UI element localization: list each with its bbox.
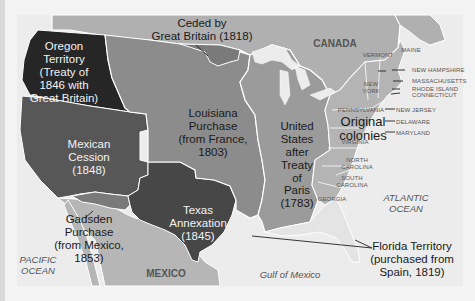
- label-line: Purchase: [54, 226, 124, 239]
- label-new-jersey: NEW JERSEY: [396, 107, 436, 114]
- label-line: NEW: [362, 81, 379, 88]
- label-texas-annexation: Texas Annexation (1845): [169, 204, 227, 243]
- label-delaware: DELAWARE: [396, 119, 430, 126]
- label-gulf-of-mexico: Gulf of Mexico: [260, 270, 321, 281]
- label-north-carolina: NORTH CAROLINA: [341, 157, 372, 170]
- label-line: States: [280, 133, 313, 146]
- label-line: Cession: [68, 151, 111, 164]
- label-line: SOUTH: [336, 175, 367, 182]
- label-maine: MAINE: [401, 47, 421, 54]
- label-line: (Treaty of: [30, 66, 98, 79]
- label-maryland: MARYLAND: [396, 130, 430, 137]
- label-line: 1803): [178, 146, 247, 159]
- label-louisiana-purchase: Louisiana Purchase (from France, 1803): [178, 107, 247, 159]
- label-line: OCEAN: [20, 266, 57, 277]
- label-line: Great Britain (1818): [152, 30, 253, 43]
- label-mexico: MEXICO: [146, 268, 185, 279]
- label-georgia: GEORGIA: [318, 196, 347, 203]
- label-line: Great Britain): [30, 92, 98, 105]
- label-new-york: NEW YORK: [362, 81, 379, 94]
- label-line: after: [280, 146, 313, 159]
- label-line: (from France,: [178, 133, 247, 146]
- label-atlantic-ocean: ATLANTIC OCEAN: [383, 193, 428, 214]
- label-ceded-by-great-britain: Ceded by Great Britain (1818): [152, 17, 253, 43]
- label-pennsylvania: PENNSYLVANIA: [338, 107, 384, 114]
- label-gadsden-purchase: Gadsden Purchase (from Mexico, 1853): [54, 213, 124, 265]
- label-line: Texas: [169, 204, 227, 217]
- label-connecticut: CONNECTICUT: [412, 92, 457, 99]
- label-line: (from Mexico,: [54, 239, 124, 252]
- label-line: Gadsden: [54, 213, 124, 226]
- label-line: Original: [339, 115, 387, 129]
- label-new-hampshire: NEW HAMPSHIRE: [412, 67, 465, 74]
- label-line: United: [280, 120, 313, 133]
- label-line: (1783): [280, 197, 313, 210]
- label-line: Mexican: [68, 138, 111, 151]
- label-line: CAROLINA: [336, 182, 367, 189]
- label-line: YORK: [362, 88, 379, 95]
- label-line: 1846 with: [30, 79, 98, 92]
- label-line: Ceded by: [152, 17, 253, 30]
- label-line: (1845): [169, 230, 227, 243]
- label-line: (purchased from: [370, 253, 454, 266]
- label-line: Oregon: [30, 40, 98, 53]
- label-line: NORTH: [341, 157, 372, 164]
- label-line: Annexation: [169, 217, 227, 230]
- label-line: of: [280, 172, 313, 185]
- label-united-states-treaty-of-paris: United States after Treaty of Paris (178…: [280, 120, 313, 210]
- label-line: Purchase: [178, 120, 247, 133]
- label-vermont: VERMONT: [363, 52, 394, 59]
- label-line: Louisiana: [178, 107, 247, 120]
- label-line: (1848): [68, 164, 111, 177]
- label-line: Territory: [30, 53, 98, 66]
- label-oregon-territory: Oregon Territory (Treaty of 1846 with Gr…: [30, 40, 98, 104]
- label-pacific-ocean: PACIFIC OCEAN: [20, 255, 57, 276]
- label-virginia: VIRGINIA: [341, 139, 368, 146]
- label-florida-territory: Florida Territory (purchased from Spain,…: [370, 240, 454, 279]
- label-canada: CANADA: [313, 38, 356, 49]
- label-line: CAROLINA: [341, 164, 372, 171]
- label-south-carolina: SOUTH CAROLINA: [336, 175, 367, 188]
- label-line: OCEAN: [383, 204, 428, 215]
- label-line: 1853): [54, 252, 124, 265]
- label-line: Spain, 1819): [370, 266, 454, 279]
- label-mexican-cession: Mexican Cession (1848): [68, 138, 111, 177]
- label-line: Treaty: [280, 159, 313, 172]
- label-line: Paris: [280, 184, 313, 197]
- label-massachusetts: MASSACHUSETTS: [412, 78, 467, 85]
- label-line: Florida Territory: [370, 240, 454, 253]
